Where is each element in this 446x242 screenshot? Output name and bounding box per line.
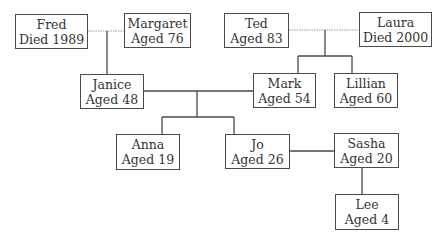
person-status: Aged 60 bbox=[340, 91, 392, 106]
person-status: Died 2000 bbox=[363, 30, 428, 45]
person-name: Jo bbox=[251, 137, 264, 152]
person-status: Aged 83 bbox=[230, 31, 282, 46]
person-status: Aged 19 bbox=[122, 152, 174, 167]
person-box-anna: Anna Aged 19 bbox=[116, 134, 180, 170]
person-box-janice: Janice Aged 48 bbox=[80, 74, 144, 109]
person-status: Aged 76 bbox=[131, 31, 183, 46]
person-status: Died 1989 bbox=[19, 32, 84, 47]
person-status: Aged 20 bbox=[340, 151, 392, 166]
person-name: Margaret bbox=[127, 16, 187, 31]
person-box-lee: Lee Aged 4 bbox=[335, 194, 399, 230]
person-name: Lee bbox=[355, 197, 378, 212]
person-box-laura: Laura Died 2000 bbox=[359, 12, 432, 47]
person-status: Aged 54 bbox=[258, 91, 310, 106]
person-status: Aged 48 bbox=[86, 92, 138, 107]
person-box-sasha: Sasha Aged 20 bbox=[334, 133, 399, 168]
person-box-mark: Mark Aged 54 bbox=[253, 73, 316, 108]
person-name: Janice bbox=[93, 77, 132, 92]
person-name: Anna bbox=[132, 137, 165, 152]
person-box-ted: Ted Aged 83 bbox=[224, 13, 289, 48]
person-name: Mark bbox=[268, 76, 302, 91]
person-name: Fred bbox=[36, 17, 66, 32]
person-box-fred: Fred Died 1989 bbox=[15, 14, 88, 49]
person-name: Laura bbox=[377, 15, 414, 30]
person-name: Sasha bbox=[348, 136, 386, 151]
person-name: Ted bbox=[245, 16, 268, 31]
person-status: Aged 26 bbox=[231, 152, 283, 167]
person-status: Aged 4 bbox=[345, 212, 389, 227]
person-name: Lillian bbox=[346, 76, 386, 91]
person-box-jo: Jo Aged 26 bbox=[225, 134, 290, 169]
person-box-lillian: Lillian Aged 60 bbox=[334, 73, 398, 108]
person-box-margaret: Margaret Aged 76 bbox=[124, 13, 191, 48]
